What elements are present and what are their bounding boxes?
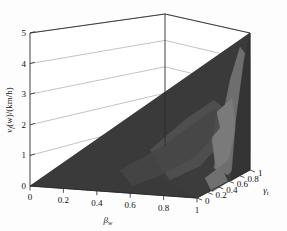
x-tick-4: 0.8 xyxy=(158,203,170,213)
z-tick-2: 2 xyxy=(22,120,27,130)
y-axis-title-sub: t xyxy=(267,189,269,196)
y-tick-5: 1 xyxy=(258,168,263,178)
x-tick-2: 0.4 xyxy=(91,198,103,208)
z-axis-title-rest: (w)/(km/h) xyxy=(4,87,14,127)
z-tick-5: 5 xyxy=(22,28,27,38)
y-axis-title: γt xyxy=(263,185,269,196)
x-tick-5: 1 xyxy=(195,205,200,215)
x-tick-3: 0.6 xyxy=(125,200,137,210)
z-axis-title: vf(w)/(km/h) xyxy=(4,87,15,132)
z-tick-4: 4 xyxy=(22,59,27,69)
x-axis-title-sub: w xyxy=(108,219,113,226)
z-axis-title-group: vf(w)/(km/h) xyxy=(4,87,15,132)
z-tick-1: 1 xyxy=(22,150,27,160)
figure-container: 0 1 2 3 4 5 vf(w)/(km/h) 0 0.2 0.4 0.6 0… xyxy=(0,0,287,231)
surface-plot-canvas: 0 1 2 3 4 5 vf(w)/(km/h) 0 0.2 0.4 0.6 0… xyxy=(0,0,287,231)
x-axis-title: βw xyxy=(103,215,113,226)
x-tick-0: 0 xyxy=(28,192,33,202)
z-tick-0: 0 xyxy=(22,181,27,191)
y-tick-1: 0.2 xyxy=(216,190,227,200)
y-tick-0: 0 xyxy=(205,196,210,206)
x-tick-1: 0.2 xyxy=(58,195,69,205)
z-tick-3: 3 xyxy=(22,89,27,99)
